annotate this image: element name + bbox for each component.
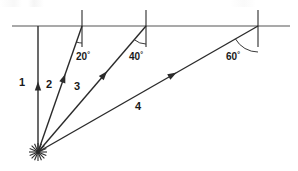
ray-2-arrowhead <box>59 74 65 84</box>
vector-ray-diagram: 1 2 3 4 20° 40° 60° <box>0 0 298 171</box>
angle-label-20-degrees: 20° <box>76 51 90 63</box>
angle-arc-40 <box>134 40 146 44</box>
angle-label-40-degrees: 40° <box>129 51 143 63</box>
ray-1-arrowhead <box>35 81 41 90</box>
diagram-canvas: 1 2 3 4 20° 40° 60° <box>0 0 298 171</box>
ray-label-3: 3 <box>74 80 80 92</box>
ray-label-1: 1 <box>19 76 25 88</box>
angle-arc-20 <box>76 42 82 43</box>
origin-starburst-marker <box>29 143 47 161</box>
ray-label-4: 4 <box>135 100 142 112</box>
angle-label-60-degrees: 60° <box>226 51 240 63</box>
ray-4-arrowhead <box>167 73 176 80</box>
ray-label-2: 2 <box>46 78 52 90</box>
ray-3-line <box>38 26 146 152</box>
ray-4-line <box>38 26 258 152</box>
